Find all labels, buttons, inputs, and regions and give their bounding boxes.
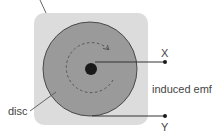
terminal-x-dot [163, 60, 167, 64]
induced-emf-label: induced emf [152, 83, 213, 95]
axle-hub [85, 63, 97, 75]
terminal-y-dot [163, 114, 167, 118]
terminal-y-label: Y [161, 121, 169, 133]
terminal-x-label: X [161, 47, 169, 59]
disc-label: disc [8, 105, 28, 117]
faraday-disc-diagram: X Y induced emf disc [0, 0, 221, 135]
